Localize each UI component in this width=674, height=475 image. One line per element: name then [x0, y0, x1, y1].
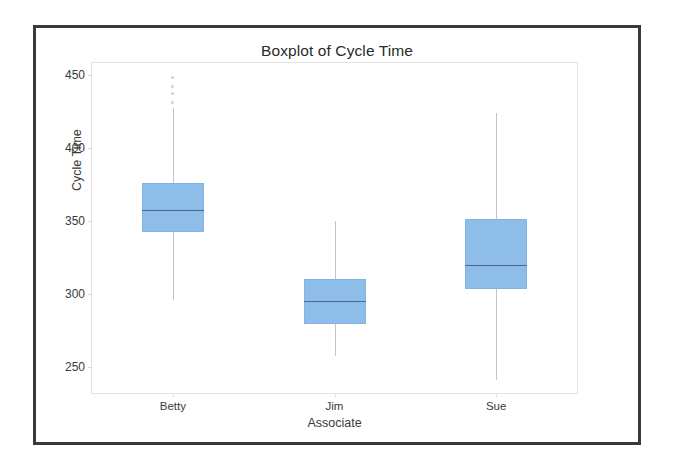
box-sue[interactable] — [465, 219, 527, 289]
y-tick-mark — [88, 367, 92, 368]
outlier-point-betty — [171, 101, 174, 104]
y-tick-label: 450 — [65, 68, 85, 82]
chart-title: Boxplot of Cycle Time — [36, 42, 638, 60]
y-axis-title: Cycle Time — [70, 129, 84, 191]
y-tick-label: 400 — [65, 141, 85, 155]
y-tick-mark — [88, 294, 92, 295]
y-tick-mark — [88, 221, 92, 222]
whisker-lower-sue — [496, 289, 497, 380]
x-tick-mark — [173, 393, 174, 397]
outlier-point-betty — [171, 85, 174, 88]
y-tick-label: 250 — [65, 360, 85, 374]
median-line-jim — [304, 301, 366, 302]
whisker-upper-betty — [173, 108, 174, 182]
y-tick-mark — [88, 148, 92, 149]
x-tick-label-betty: Betty — [160, 400, 186, 412]
x-tick-mark — [496, 393, 497, 397]
y-tick-label: 350 — [65, 214, 85, 228]
median-line-sue — [465, 265, 527, 266]
whisker-upper-sue — [496, 113, 497, 220]
y-tick-label: 300 — [65, 287, 85, 301]
median-line-betty — [142, 210, 204, 211]
x-axis-title: Associate — [307, 416, 361, 430]
chart-figure-frame: Boxplot of Cycle Time Cycle Time Associa… — [33, 25, 641, 445]
y-tick-mark — [88, 75, 92, 76]
whisker-lower-jim — [335, 324, 336, 356]
box-betty[interactable] — [142, 183, 204, 233]
x-tick-label-sue: Sue — [486, 400, 506, 412]
whisker-lower-betty — [173, 232, 174, 299]
boxplot-canvas — [92, 63, 577, 393]
whisker-upper-jim — [335, 221, 336, 279]
plot-area[interactable]: Cycle Time Associate 250300350400450Bett… — [91, 62, 578, 394]
outlier-point-betty — [171, 92, 174, 95]
outlier-point-betty — [171, 76, 174, 79]
x-tick-mark — [335, 393, 336, 397]
x-tick-label-jim: Jim — [326, 400, 344, 412]
